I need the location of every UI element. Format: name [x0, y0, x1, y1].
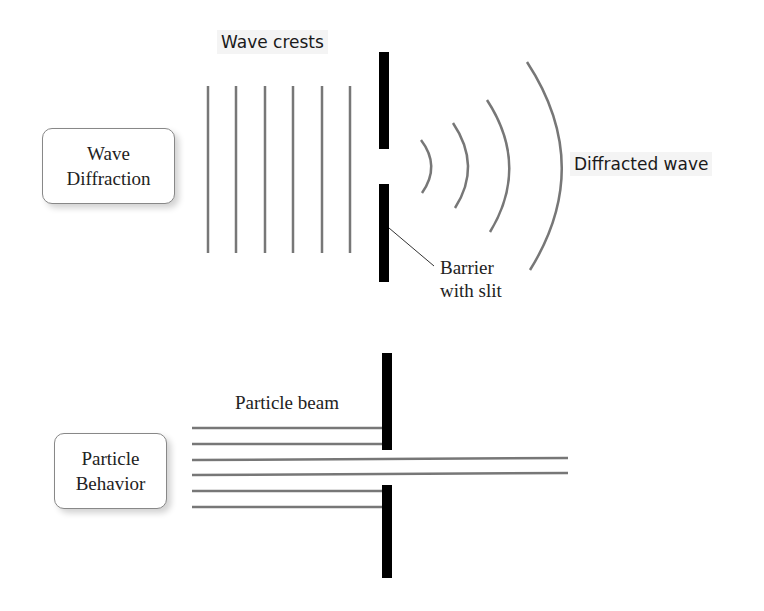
- particle-box-line1: Particle: [76, 446, 146, 471]
- particle-beam-label: Particle beam: [235, 391, 339, 414]
- barrier-label: Barrier with slit: [440, 256, 502, 302]
- particle-box-line2: Behavior: [76, 471, 146, 496]
- diffracted-arcs: [421, 62, 562, 270]
- particle-beam-lines: [192, 428, 568, 507]
- wave-box-line1: Wave: [66, 141, 150, 166]
- particle-behavior-box: Particle Behavior: [54, 433, 167, 509]
- diffracted-wave-label: Diffracted wave: [570, 152, 712, 176]
- wave-barrier: [379, 52, 389, 282]
- diagram-canvas: [0, 0, 764, 611]
- wave-crests: [208, 86, 350, 253]
- wave-diffraction-box: Wave Diffraction: [42, 128, 175, 204]
- wave-crests-label: Wave crests: [217, 30, 328, 54]
- barrier-label-line1: Barrier: [440, 256, 502, 279]
- particle-barrier: [382, 353, 392, 578]
- barrier-label-line2: with slit: [440, 279, 502, 302]
- wave-box-line2: Diffraction: [66, 166, 150, 191]
